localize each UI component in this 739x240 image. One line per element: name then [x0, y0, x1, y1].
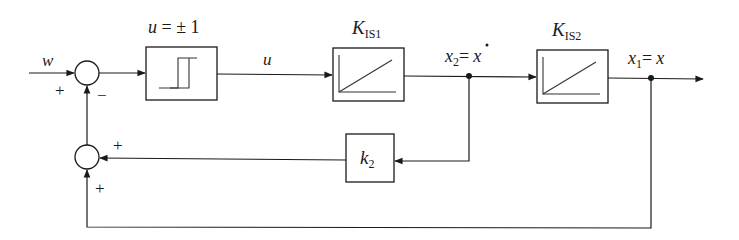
relay-block [146, 47, 217, 100]
derivative-dot [486, 44, 489, 47]
summing-junction-2 [75, 145, 99, 169]
output-arrow [608, 78, 703, 79]
sum1-plus-sign: + [55, 81, 65, 100]
integrator-1-label: KIS1 [351, 17, 381, 41]
sum2-plus-sign-x1: + [95, 179, 105, 198]
sum1-minus-sign: − [97, 86, 107, 105]
x2-label: x2=x [444, 46, 481, 69]
k2-output-arrow [100, 158, 346, 160]
relay-label: u = ± 1 [148, 17, 200, 37]
u-arrow [217, 74, 332, 75]
summing-junction-1 [75, 61, 99, 85]
sum2-plus-sign-k2: + [113, 136, 123, 155]
u-label: u [263, 50, 272, 69]
block-diagram: w + − u = ± 1 u KIS1 x2=x KIS2 x1=x k2 + [0, 0, 739, 240]
integrator-2-block [537, 50, 608, 103]
x1-label: x1=x [627, 48, 664, 71]
x2-feedback-path [395, 76, 469, 161]
integrator-2-label: KIS2 [551, 19, 581, 43]
integrator-1-block [333, 48, 404, 101]
input-label: w [42, 51, 54, 70]
